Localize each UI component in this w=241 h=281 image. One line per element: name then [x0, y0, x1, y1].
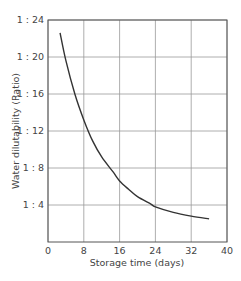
x-tick-label: 0 — [45, 245, 51, 256]
line-chart: 0816243240 1 : 41 : 81 : 121 : 161 : 201… — [0, 0, 241, 281]
x-axis-ticks: 0816243240 — [45, 245, 233, 256]
data-line — [60, 33, 209, 219]
x-tick-label: 24 — [149, 245, 161, 256]
y-tick-label: 1 : 24 — [17, 14, 44, 25]
x-tick-label: 40 — [221, 245, 233, 256]
y-tick-label: 1 : 8 — [23, 162, 44, 173]
x-axis-label: Storage time (days) — [90, 257, 185, 268]
y-axis-label: Water dilutability (Ratio) — [10, 73, 21, 189]
y-tick-label: 1 : 20 — [17, 51, 44, 62]
x-tick-label: 8 — [81, 245, 87, 256]
grid-lines — [48, 20, 227, 242]
x-tick-label: 32 — [185, 245, 197, 256]
y-tick-label: 1 : 4 — [23, 199, 44, 210]
x-tick-label: 16 — [114, 245, 126, 256]
